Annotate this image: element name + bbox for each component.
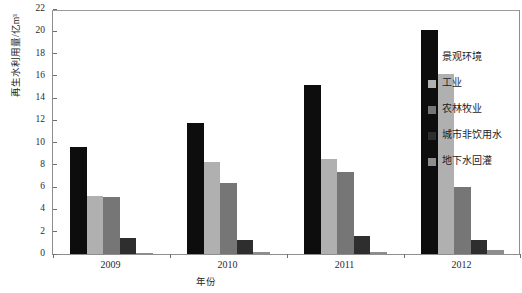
y-tick-mark bbox=[53, 31, 57, 32]
legend-item-label: 农林牧业 bbox=[442, 103, 482, 115]
bar bbox=[354, 236, 371, 254]
bar bbox=[421, 30, 438, 254]
y-tick-label: 2 bbox=[15, 225, 45, 238]
y-tick-mark bbox=[53, 231, 57, 232]
bar bbox=[337, 172, 354, 254]
bar bbox=[253, 252, 270, 254]
x-tick-mark bbox=[53, 254, 54, 258]
y-tick-label: 6 bbox=[15, 180, 45, 193]
bar bbox=[370, 252, 387, 254]
legend-swatch-icon bbox=[428, 80, 436, 88]
bar bbox=[237, 240, 254, 254]
bar bbox=[87, 196, 104, 254]
y-tick-label: 10 bbox=[15, 136, 45, 149]
bar bbox=[471, 240, 488, 254]
bar-chart: 0246810121416182022 再生水利用量/亿m³ 200920102… bbox=[0, 0, 522, 293]
y-tick-mark bbox=[53, 209, 57, 210]
x-tick-label: 2012 bbox=[427, 259, 497, 270]
bar bbox=[487, 250, 504, 254]
y-tick-mark bbox=[53, 120, 57, 121]
x-axis-title-text: 年份 bbox=[196, 277, 216, 287]
bar bbox=[70, 147, 87, 254]
bar bbox=[304, 85, 321, 254]
legend-item-label: 工业 bbox=[442, 77, 462, 89]
x-tick-mark bbox=[520, 254, 521, 258]
y-tick-label: 0 bbox=[15, 247, 45, 260]
bar bbox=[204, 162, 221, 254]
y-tick-mark bbox=[53, 187, 57, 188]
bar bbox=[136, 253, 153, 254]
bar bbox=[187, 123, 204, 254]
bar bbox=[321, 159, 338, 254]
bar bbox=[454, 187, 471, 254]
legend-item-label: 景观环境 bbox=[442, 51, 482, 63]
legend-swatch-icon bbox=[428, 132, 436, 140]
x-tick-label: 2011 bbox=[310, 259, 380, 270]
y-tick-mark bbox=[53, 142, 57, 143]
y-tick-label: 4 bbox=[15, 202, 45, 215]
y-tick-mark bbox=[53, 75, 57, 76]
bar bbox=[120, 238, 137, 254]
x-tick-mark bbox=[170, 254, 171, 258]
x-tick-mark bbox=[287, 254, 288, 258]
legend-item-label: 城市非饮用水 bbox=[442, 129, 502, 141]
y-tick-mark bbox=[53, 9, 57, 10]
bar bbox=[103, 197, 120, 254]
x-tick-label: 2010 bbox=[193, 259, 263, 270]
y-tick-label: 8 bbox=[15, 158, 45, 171]
x-tick-mark bbox=[404, 254, 405, 258]
bar bbox=[220, 183, 237, 254]
y-tick-mark bbox=[53, 98, 57, 99]
x-axis-title: 年份 bbox=[0, 274, 522, 288]
legend-swatch-icon bbox=[428, 106, 436, 114]
y-axis-title: 再生水利用量/亿m³ bbox=[11, 0, 22, 131]
legend-item-label: 地下水回灌 bbox=[442, 155, 492, 167]
legend-swatch-icon bbox=[428, 54, 436, 62]
y-tick-mark bbox=[53, 53, 57, 54]
legend-swatch-icon bbox=[428, 158, 436, 166]
y-tick-mark bbox=[53, 164, 57, 165]
x-tick-label: 2009 bbox=[76, 259, 146, 270]
